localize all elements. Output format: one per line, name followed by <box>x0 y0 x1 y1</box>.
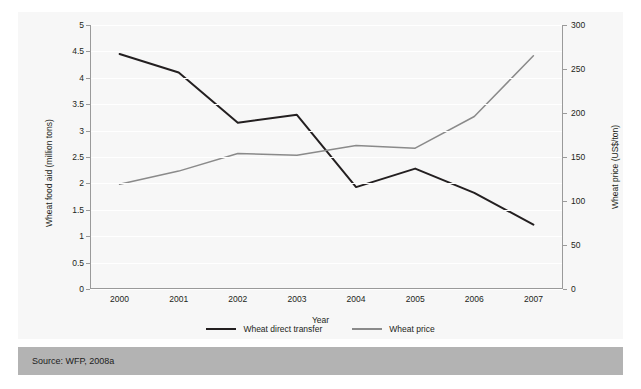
right-tick-label: 250 <box>571 65 585 74</box>
chart-panel: Wheat food aid (million tons) Wheat pric… <box>18 12 623 339</box>
left-tick-label: 4 <box>56 74 84 83</box>
left-tick-mark <box>86 263 90 264</box>
legend: Wheat direct transfer Wheat price <box>18 322 623 336</box>
right-tick-mark <box>563 201 567 202</box>
gridline <box>90 210 563 211</box>
right-tick-label: 150 <box>571 153 585 162</box>
legend-label-wheat-direct-transfer: Wheat direct transfer <box>243 324 322 334</box>
plot-area <box>90 25 563 289</box>
x-tick-label: 2005 <box>385 295 445 304</box>
gridline <box>90 183 563 184</box>
source-text: Source: WFP, 2008a <box>18 356 114 366</box>
x-tick-label: 2007 <box>503 295 563 304</box>
left-tick-label: 5 <box>56 21 84 30</box>
left-tick-mark <box>86 210 90 211</box>
left-tick-mark <box>86 104 90 105</box>
gridline <box>90 51 563 52</box>
left-tick-label: 1.5 <box>56 206 84 215</box>
left-tick-label: 3.5 <box>56 100 84 109</box>
legend-label-wheat-price: Wheat price <box>389 324 434 334</box>
left-axis-line <box>90 25 91 289</box>
legend-line-swatch-gray <box>352 328 382 330</box>
source-bar: Source: WFP, 2008a <box>18 347 623 375</box>
right-tick-mark <box>563 69 567 70</box>
gridline <box>90 289 563 290</box>
right-tick-mark <box>563 157 567 158</box>
left-tick-mark <box>86 289 90 290</box>
left-tick-mark <box>86 236 90 237</box>
right-tick-label: 200 <box>571 109 585 118</box>
left-tick-label: 0 <box>56 285 84 294</box>
bottom-axis-line <box>90 288 563 289</box>
right-axis-title: Wheat price (US$/ton) <box>610 125 620 209</box>
x-tick-label: 2003 <box>267 295 327 304</box>
right-tick-mark <box>563 113 567 114</box>
left-axis-title: Wheat food aid (million tons) <box>44 119 54 227</box>
right-tick-mark <box>563 289 567 290</box>
left-tick-label: 0.5 <box>56 259 84 268</box>
left-tick-label: 1 <box>56 232 84 241</box>
x-tick-label: 2001 <box>149 295 209 304</box>
x-tick-label: 2000 <box>90 295 150 304</box>
legend-item-wheat-price: Wheat price <box>352 324 434 334</box>
left-tick-mark <box>86 183 90 184</box>
left-tick-label: 4.5 <box>56 47 84 56</box>
x-tick-label: 2006 <box>444 295 504 304</box>
left-tick-mark <box>86 131 90 132</box>
gridline <box>90 104 563 105</box>
gridline <box>90 131 563 132</box>
gridline <box>90 263 563 264</box>
right-tick-label: 300 <box>571 21 585 30</box>
left-tick-mark <box>86 78 90 79</box>
right-tick-label: 100 <box>571 197 585 206</box>
right-tick-mark <box>563 25 567 26</box>
right-tick-label: 0 <box>571 285 576 294</box>
left-tick-mark <box>86 25 90 26</box>
legend-line-swatch-dark <box>206 328 236 330</box>
right-tick-mark <box>563 245 567 246</box>
series-line <box>120 54 534 225</box>
left-tick-mark <box>86 51 90 52</box>
legend-item-wheat-direct-transfer: Wheat direct transfer <box>206 324 322 334</box>
gridline <box>90 78 563 79</box>
left-tick-label: 2 <box>56 179 84 188</box>
figure-container: Wheat food aid (million tons) Wheat pric… <box>0 0 641 389</box>
left-tick-mark <box>86 157 90 158</box>
left-tick-label: 3 <box>56 127 84 136</box>
x-tick-label: 2002 <box>208 295 268 304</box>
gridline <box>90 236 563 237</box>
right-tick-label: 50 <box>571 241 580 250</box>
clipped-title-strip <box>0 0 641 10</box>
gridline <box>90 25 563 26</box>
gridline <box>90 157 563 158</box>
left-tick-label: 2.5 <box>56 153 84 162</box>
x-tick-label: 2004 <box>326 295 386 304</box>
